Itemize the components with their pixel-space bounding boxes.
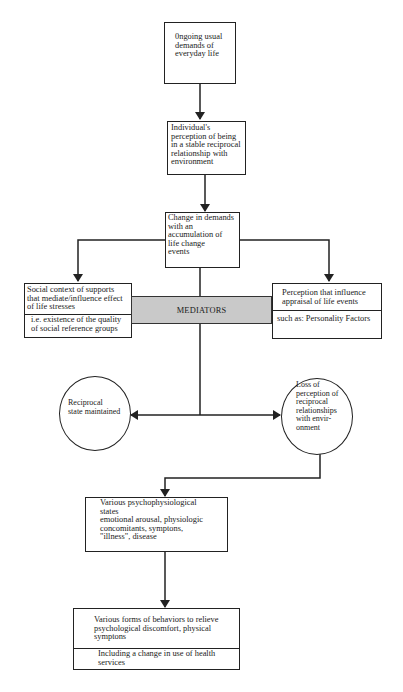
node-behaviors-bottom-text: Including a change in use of health serv…: [98, 650, 215, 667]
node-perception-appraisal-bottom-text: such as: Personality Factors: [277, 315, 370, 324]
node-mediators: MEDIATORS: [131, 296, 272, 324]
node-perception-appraisal: Perception that influence appraisal of l…: [272, 283, 382, 339]
node-loss-of-perception: Loss of perception of reciprocal relatio…: [281, 378, 353, 455]
node-mediators-text: MEDIATORS: [177, 306, 227, 315]
node-individual-perception-text: Individual's perception of being in a st…: [171, 124, 241, 167]
node-change-in-demands: Change in demands with an accumulation o…: [165, 212, 240, 268]
node-social-context-top-text: Social context of supports that mediate/…: [27, 286, 123, 312]
node-perception-appraisal-top-text: Perception that influence appraisal of l…: [282, 289, 366, 306]
node-psychophysiological-states: Various psychophysiological states emoti…: [85, 497, 228, 552]
node-individual-perception: Individual's perception of being in a st…: [167, 121, 246, 175]
node-behaviors-top-text: Various forms of behaviors to relieve ps…: [94, 616, 218, 642]
node-behaviors: Various forms of behaviors to relieve ps…: [73, 608, 240, 670]
node-loss-of-perception-text: Loss of perception of reciprocal relatio…: [296, 381, 338, 433]
node-social-context: Social context of supports that mediate/…: [24, 283, 132, 338]
node-reciprocal-state: Reciprocal state maintained: [59, 376, 131, 451]
node-ongoing-demands-text: 0ngoing usual demands of everyday life: [175, 33, 222, 59]
connector-lines: [0, 0, 403, 692]
node-social-context-bottom-text: i.e. existence of the quality of social …: [31, 316, 121, 333]
node-ongoing-demands: 0ngoing usual demands of everyday life: [164, 22, 236, 84]
node-reciprocal-state-text: Reciprocal state maintained: [68, 399, 120, 416]
node-perception-appraisal-divider: [273, 310, 381, 311]
node-change-in-demands-text: Change in demands with an accumulation o…: [168, 214, 234, 257]
node-psychophysiological-states-text: Various psychophysiological states emoti…: [100, 499, 203, 542]
